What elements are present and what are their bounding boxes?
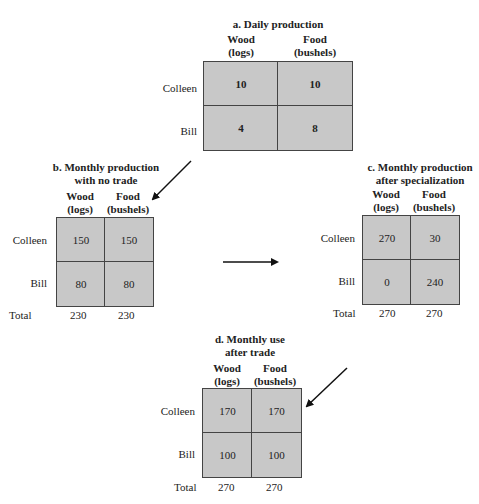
- panel-d-title-line2: after trade: [190, 346, 310, 359]
- panel-d-row-colleen: Colleen: [135, 405, 195, 417]
- grid-divider: [363, 259, 459, 260]
- panel-d-total-label: Total: [174, 481, 196, 493]
- panel-c-total-label: Total: [333, 307, 355, 319]
- panel-b-colleen-food: 150: [105, 218, 153, 262]
- panel-b-total-food: 230: [118, 309, 135, 321]
- panel-c-colleen-wood: 270: [363, 216, 411, 260]
- header-wood-unit: (logs): [362, 201, 410, 214]
- header-wood-unit: (logs): [203, 375, 251, 388]
- panel-c-grid: 270 30 0 240: [362, 215, 460, 305]
- panel-b-total-label: Total: [9, 309, 31, 321]
- panel-b-row-bill: Bill: [0, 277, 47, 289]
- header-food-label: Food: [410, 188, 458, 201]
- header-food-unit: (bushels): [251, 375, 299, 388]
- panel-d-title-line1: d. Monthly use: [190, 333, 310, 346]
- header-food-label: Food: [251, 362, 299, 375]
- panel-d-colleen-wood: 170: [203, 389, 252, 433]
- panel-c-row-colleen: Colleen: [295, 232, 355, 244]
- panel-d-colleen-food: 170: [252, 389, 301, 433]
- panel-d-header-wood: Wood (logs): [203, 362, 251, 388]
- panel-c-title: c. Monthly production after specializati…: [360, 161, 479, 187]
- panel-c-total-wood: 270: [379, 307, 396, 319]
- panel-c-bill-food: 240: [411, 260, 459, 304]
- panel-c-header-wood: Wood (logs): [362, 188, 410, 214]
- panel-d-bill-wood: 100: [203, 433, 252, 477]
- panel-c-title-line1: c. Monthly production: [360, 161, 479, 174]
- panel-b-title-line2: with no trade: [46, 174, 166, 187]
- panel-b-grid: 150 150 80 80: [56, 217, 154, 307]
- panel-d-row-bill: Bill: [135, 448, 195, 460]
- panel-b-title-line1: b. Monthly production: [46, 161, 166, 174]
- panel-d-header-food: Food (bushels): [251, 362, 299, 388]
- grid-divider: [104, 218, 105, 306]
- panel-d-bill-food: 100: [252, 433, 301, 477]
- grid-divider: [57, 261, 153, 262]
- panel-b-row-colleen: Colleen: [0, 234, 47, 246]
- panel-c-total-food: 270: [426, 307, 443, 319]
- panel-d-title: d. Monthly use after trade: [190, 333, 310, 359]
- panel-d-grid: 170 170 100 100: [202, 388, 302, 478]
- panel-c-bill-wood: 0: [363, 260, 411, 304]
- panel-b-colleen-wood: 150: [57, 218, 105, 262]
- panel-c-header-food: Food (bushels): [410, 188, 458, 214]
- panel-b-header-food: Food (bushels): [104, 190, 152, 216]
- panel-b-bill-food: 80: [105, 262, 153, 306]
- panel-d-total-food: 270: [266, 481, 283, 493]
- header-wood-label: Wood: [203, 362, 251, 375]
- panel-b-header-wood: Wood (logs): [56, 190, 104, 216]
- header-food-unit: (bushels): [104, 203, 152, 216]
- panel-c-title-line2: after specialization: [360, 174, 479, 187]
- panel-c-colleen-food: 30: [411, 216, 459, 260]
- header-wood-label: Wood: [362, 188, 410, 201]
- panel-b-title: b. Monthly production with no trade: [46, 161, 166, 187]
- header-wood-unit: (logs): [56, 203, 104, 216]
- grid-divider: [251, 389, 252, 477]
- grid-divider: [203, 432, 301, 433]
- header-food-label: Food: [104, 190, 152, 203]
- panel-b-total-wood: 230: [70, 309, 87, 321]
- panel-d-total-wood: 270: [218, 481, 235, 493]
- header-food-unit: (bushels): [410, 201, 458, 214]
- grid-divider: [410, 216, 411, 304]
- header-wood-label: Wood: [56, 190, 104, 203]
- panel-b-bill-wood: 80: [57, 262, 105, 306]
- panel-c-row-bill: Bill: [295, 275, 355, 287]
